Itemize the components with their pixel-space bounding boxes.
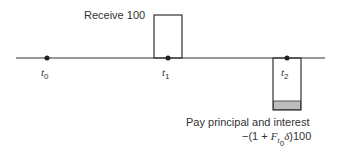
time-label-t1: t1	[162, 66, 170, 81]
receive-label: Receive 100	[84, 9, 145, 21]
timeline-dot-t2	[285, 56, 290, 61]
timeline-dot-t1	[166, 56, 171, 61]
pay-formula: −(1 + Ft0δ)100	[242, 130, 311, 148]
time-label-t0: t0	[41, 66, 49, 81]
timeline-dot-t0	[45, 56, 50, 61]
time-label-t2: t2	[281, 66, 289, 81]
pay-label: Pay principal and interest	[186, 116, 310, 128]
pay-box-shade	[274, 101, 301, 109]
receive-box	[154, 15, 182, 58]
